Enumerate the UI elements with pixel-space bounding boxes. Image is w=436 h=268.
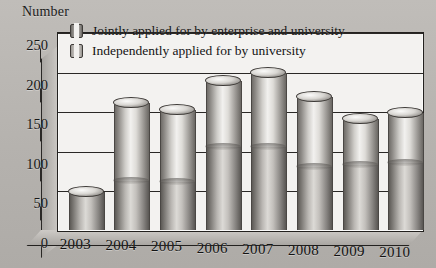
bar-segment-jointly-2004 [114,181,150,230]
bar-segment-jointly-2009 [343,165,379,230]
bar-segment-independently-2006 [206,81,242,147]
bar-segment-jointly-2008 [297,167,333,230]
legend-label-jointly: Jointly applied for by enterprise and un… [92,23,345,39]
bar-segment-independently-2005 [160,110,196,183]
x-tick-2010: 2010 [379,244,410,261]
legend: Jointly applied for by enterprise and un… [70,22,370,62]
bar-top-ellipse [387,107,423,118]
bar-2004 [114,103,148,230]
bar-segment-independently-2007 [251,73,287,147]
bar-2003 [69,192,103,230]
bar-segment-independently-2008 [297,97,333,167]
x-tick-2006: 2006 [197,240,228,257]
legend-item-jointly: Jointly applied for by enterprise and un… [70,22,370,39]
bar-segment-seam [296,163,332,170]
bar-top-ellipse [296,91,332,102]
bar-segment-independently-2004 [114,103,150,181]
bar-2008 [297,97,331,230]
x-tick-2005: 2005 [151,238,182,255]
cylinder-swatch-light-icon [70,44,83,58]
x-tick-2003: 2003 [60,236,91,253]
bar-segment-jointly-2006 [206,147,242,230]
legend-item-independently: Independently applied for by university [70,42,370,59]
bar-top-ellipse [205,75,241,86]
legend-label-independently: Independently applied for by university [92,43,306,59]
bar-top-ellipse [68,186,104,197]
x-tick-2008: 2008 [288,242,319,259]
bar-segment-jointly-2003 [69,192,105,230]
chart-figure: Number 050100150200250 20032004200520062… [0,0,436,268]
x-tick-2004: 2004 [105,237,136,254]
bar-2010 [388,113,422,230]
bar-2005 [160,110,194,230]
bar-segment-seam [342,161,378,168]
cylinder-swatch-dark-icon [70,24,83,38]
bar-segment-jointly-2010 [388,163,424,230]
bar-segment-seam [113,177,149,184]
x-tick-2009: 2009 [334,243,365,260]
bar-segment-independently-2009 [343,119,379,165]
bar-2007 [251,73,285,230]
bar-segment-jointly-2005 [160,182,196,230]
bar-top-ellipse [159,104,195,115]
bar-segment-seam [205,143,241,150]
figure-caption [60,256,260,268]
y-axis-caption: Number [22,4,69,20]
bar-segment-jointly-2007 [251,147,287,230]
bar-segment-seam [250,143,286,150]
bar-top-ellipse [342,113,378,124]
bar-2009 [343,119,377,230]
bar-2006 [206,81,240,230]
bar-segment-independently-2010 [388,113,424,164]
